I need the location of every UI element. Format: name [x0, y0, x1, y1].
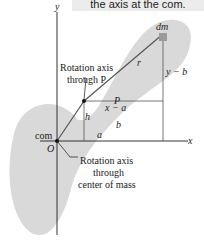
axis-com-label-1: Rotation axis: [80, 155, 133, 166]
axis-P-label-1: Rotation axis: [60, 62, 113, 73]
r-label: r: [137, 57, 141, 68]
dm-label: dm: [156, 21, 168, 32]
x-axis-label: x: [187, 135, 193, 146]
com-label: com: [35, 130, 52, 141]
dm-element: [159, 33, 167, 41]
b-label: b: [116, 119, 121, 130]
a-label: a: [97, 129, 102, 140]
axis-P-label-2: through P: [67, 74, 107, 85]
y-axis-label: y: [54, 1, 60, 12]
h-label: h: [85, 111, 90, 122]
parallel-axis-diagram: y x dm r y − b x − a h b a P com O Rotat…: [0, 0, 204, 245]
P-label: P: [113, 95, 120, 106]
axis-com-label-3: center of mass: [78, 179, 136, 190]
O-label: O: [47, 143, 54, 154]
rigid-body-shape: [10, 20, 191, 235]
y-minus-b-label: y − b: [165, 66, 187, 77]
axis-com-label-2: through: [93, 167, 124, 178]
